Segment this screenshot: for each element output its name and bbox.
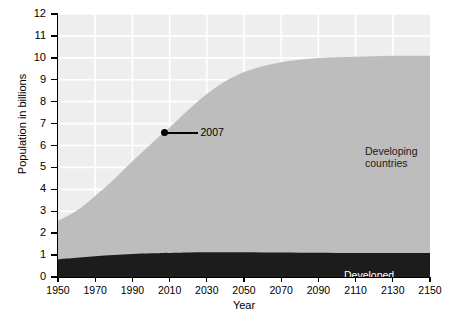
x-tick-label: 1950 (38, 284, 78, 296)
y-tick-label: 3 (0, 205, 46, 216)
x-tick-label: 2110 (336, 284, 376, 296)
y-tick-label: 12 (0, 8, 46, 19)
y-tick-mark (51, 254, 57, 255)
y-tick-label: 1 (0, 249, 46, 260)
x-tick-label: 2090 (298, 284, 338, 296)
y-tick-mark (51, 123, 57, 124)
annotation-leader-line (167, 132, 198, 133)
x-tick-mark (355, 277, 356, 282)
y-axis-line (57, 13, 58, 278)
y-axis-title: Population in billions (16, 44, 28, 204)
series-label-developing: Developing countries (365, 145, 418, 169)
x-tick-mark (281, 277, 282, 282)
x-tick-mark (95, 277, 96, 282)
x-axis-title: Year (58, 299, 430, 311)
x-tick-label: 1990 (112, 284, 152, 296)
plot-area: Developing countries Developed countries… (58, 14, 430, 277)
x-tick-mark (243, 277, 244, 282)
y-tick-mark (51, 35, 57, 36)
x-tick-mark (132, 277, 133, 282)
y-tick-mark (51, 57, 57, 58)
y-tick-mark (51, 79, 57, 80)
y-tick-mark (51, 145, 57, 146)
x-tick-label: 2150 (410, 284, 450, 296)
y-tick-mark (51, 167, 57, 168)
x-tick-label: 2030 (187, 284, 227, 296)
x-tick-label: 2130 (373, 284, 413, 296)
y-tick-mark (51, 276, 57, 277)
y-tick-mark (51, 232, 57, 233)
x-tick-mark (206, 277, 207, 282)
y-tick-label: 2 (0, 227, 46, 238)
population-area-chart: Developing countries Developed countries… (0, 0, 460, 324)
y-tick-mark (51, 13, 57, 14)
x-tick-mark (429, 277, 430, 282)
y-tick-label: 11 (0, 30, 46, 41)
x-tick-mark (318, 277, 319, 282)
x-tick-mark (392, 277, 393, 282)
annotation-label: 2007 (201, 126, 224, 138)
x-tick-label: 2070 (261, 284, 301, 296)
x-tick-label: 2010 (150, 284, 190, 296)
x-tick-mark (57, 277, 58, 282)
y-tick-mark (51, 211, 57, 212)
x-tick-mark (169, 277, 170, 282)
y-tick-mark (51, 189, 57, 190)
x-tick-label: 2050 (224, 284, 264, 296)
x-tick-label: 1970 (75, 284, 115, 296)
y-tick-label: 0 (0, 271, 46, 282)
y-tick-mark (51, 101, 57, 102)
